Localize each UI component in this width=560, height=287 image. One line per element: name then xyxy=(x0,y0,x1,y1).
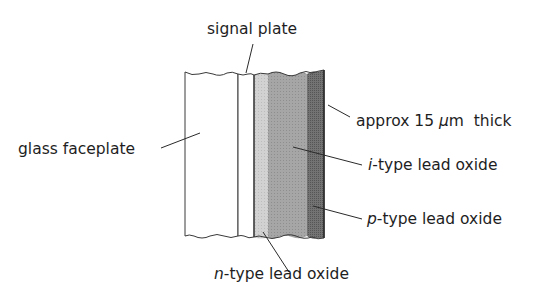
n-type-text: -type lead oxide xyxy=(224,265,349,283)
p-type-text: -type lead oxide xyxy=(377,210,502,228)
n-type-prefix: n xyxy=(214,265,224,283)
p-type-label: p-type lead oxide xyxy=(366,210,502,228)
glass-faceplate-label: glass faceplate xyxy=(18,140,135,158)
signal-plate-leader xyxy=(246,44,253,73)
n-type-label: n-type lead oxide xyxy=(214,265,349,283)
thickness-prefix: approx 15 xyxy=(356,112,439,130)
i-type-text: -type lead oxide xyxy=(372,156,497,174)
signal-plate-layer xyxy=(238,74,254,238)
i-type-layer xyxy=(268,72,307,239)
glass-faceplate-layer xyxy=(185,72,238,238)
i-type-label: i-type lead oxide xyxy=(368,156,497,174)
thickness-label: approx 15 μm thick xyxy=(356,112,512,130)
layer-diagram: signal plate glass faceplate approx 15 μ… xyxy=(0,0,560,287)
thickness-suffix: m thick xyxy=(449,112,512,130)
n-type-layer xyxy=(254,73,268,238)
micro-symbol: μ xyxy=(438,112,449,130)
thickness-leader xyxy=(328,105,350,117)
signal-plate-label: signal plate xyxy=(207,20,297,38)
p-type-prefix: p xyxy=(366,210,377,228)
